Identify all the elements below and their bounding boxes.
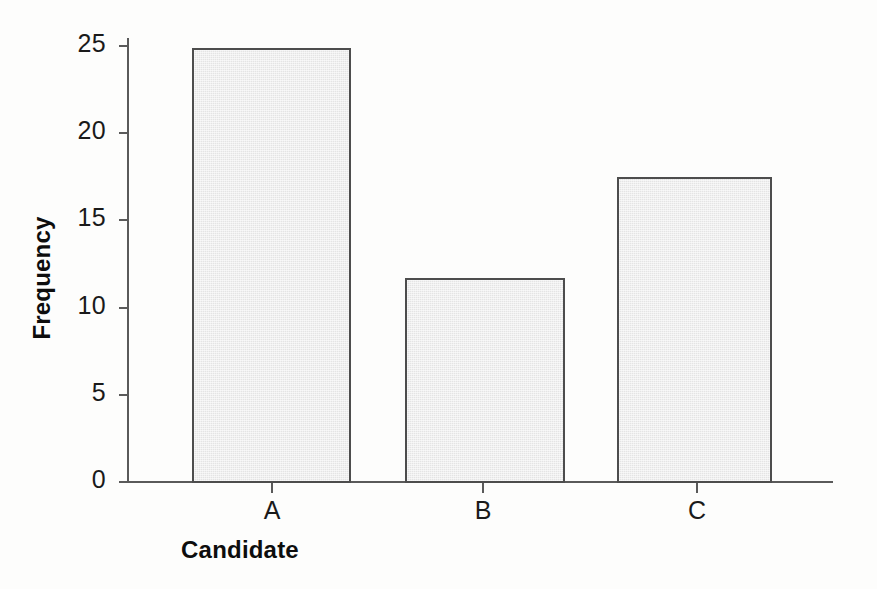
y-tick-10 (119, 307, 128, 309)
y-axis-title: Frequency (28, 128, 56, 428)
y-tick-0 (119, 481, 128, 483)
y-tick-15 (119, 219, 128, 221)
x-tick-label-c: C (667, 496, 727, 525)
y-tick-20 (119, 132, 128, 134)
bar-chart-figure: 0510152025 ABC Candidate Frequency (0, 0, 877, 589)
x-axis-title: Candidate (0, 536, 877, 564)
y-tick-label: 25 (66, 29, 106, 58)
bar-a (192, 48, 351, 483)
bar-c (617, 177, 772, 483)
y-tick-label: 15 (66, 203, 106, 232)
plot-area: 0510152025 ABC Candidate Frequency (0, 0, 877, 589)
x-tick-label-b: B (453, 496, 513, 525)
x-tick-c (696, 483, 698, 493)
y-tick-label: 20 (66, 116, 106, 145)
x-tick-label-a: A (242, 496, 302, 525)
x-tick-b (482, 483, 484, 493)
y-tick-label: 0 (66, 465, 106, 494)
y-tick-label: 5 (66, 378, 106, 407)
y-tick-5 (119, 394, 128, 396)
x-tick-a (271, 483, 273, 493)
y-tick-label: 10 (66, 291, 106, 320)
bar-b (405, 278, 565, 483)
y-axis-line (127, 38, 129, 483)
x-axis-title-text: Candidate (181, 536, 299, 564)
y-tick-25 (119, 45, 128, 47)
